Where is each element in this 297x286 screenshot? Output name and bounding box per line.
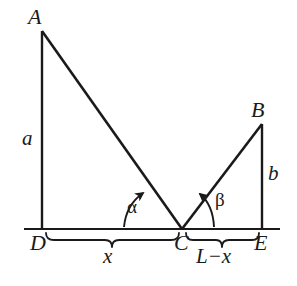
- brace-label-l-minus-x: L−x: [196, 246, 231, 267]
- segment-AC: [42, 31, 182, 229]
- segment-CB: [182, 124, 262, 229]
- vertex-label-E: E: [254, 232, 267, 254]
- side-label-a: a: [22, 128, 33, 149]
- vertex-label-D: D: [30, 232, 46, 254]
- brace-label-x: x: [103, 246, 112, 267]
- angle-arc-beta: [200, 194, 214, 227]
- side-label-b: b: [268, 163, 279, 184]
- vertex-label-A: A: [28, 6, 41, 28]
- brace-x: [46, 233, 179, 247]
- angle-label-alpha: α: [127, 197, 137, 216]
- angle-label-beta: β: [215, 190, 225, 209]
- geometry-figure: A B C D E a b α β x L−x: [0, 0, 297, 286]
- vertex-label-B: B: [251, 99, 264, 121]
- vertex-label-C: C: [174, 232, 189, 254]
